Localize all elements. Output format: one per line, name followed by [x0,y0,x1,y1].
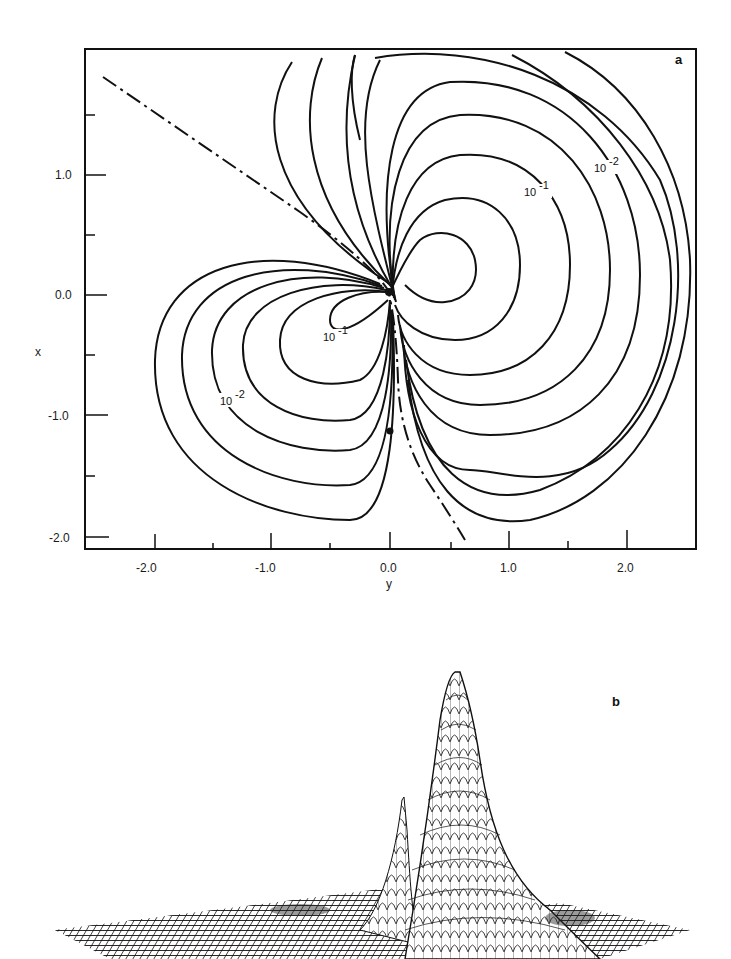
left-axis-ticks [85,115,109,537]
contour-label-left-inner: 10 -1 [321,324,349,343]
contour-label-left-outer: 10 -2 [218,388,250,407]
surface-shadow-left [270,904,330,916]
left-lobe-contours [155,261,394,520]
y-tick-neg1: -1.0 [48,409,69,423]
svg-text:10: 10 [524,186,536,198]
marked-point [387,428,394,435]
svg-text:-1: -1 [338,324,348,336]
x-axis-label: y [386,577,392,591]
x-tick-neg2: -2.0 [136,561,157,575]
contour-label-right-outer: 10 -2 [592,155,626,174]
svg-text:10: 10 [323,331,335,343]
svg-text:-2: -2 [235,388,245,400]
panel-label-a: a [675,52,683,67]
x-tick-1: 1.0 [500,561,517,575]
bottom-axis-ticks [155,530,627,549]
x-tick-0: 0.0 [380,561,397,575]
y-tick-0: 0.0 [55,288,72,302]
surface-shadow-right [545,910,595,926]
contour-label-right-inner: 10 -1 [522,179,552,198]
x-tick-2: 2.0 [617,561,634,575]
x-tick-neg1: -1.0 [255,561,276,575]
svg-text:10: 10 [594,162,606,174]
panel-label-b: b [612,694,620,709]
svg-text:-2: -2 [609,155,619,167]
surface-plot-panel-b: b [0,600,731,959]
contour-plot-panel-a: 1.0 0.0 -1.0 -2.0 x -2.0 -1.0 0.0 1.0 2.… [0,0,731,600]
singular-point [385,288,393,296]
y-tick-neg2: -2.0 [49,531,70,545]
svg-text:-1: -1 [539,179,549,191]
y-tick-1: 1.0 [55,168,72,182]
svg-text:10: 10 [220,395,232,407]
y-axis-label: x [35,345,41,359]
